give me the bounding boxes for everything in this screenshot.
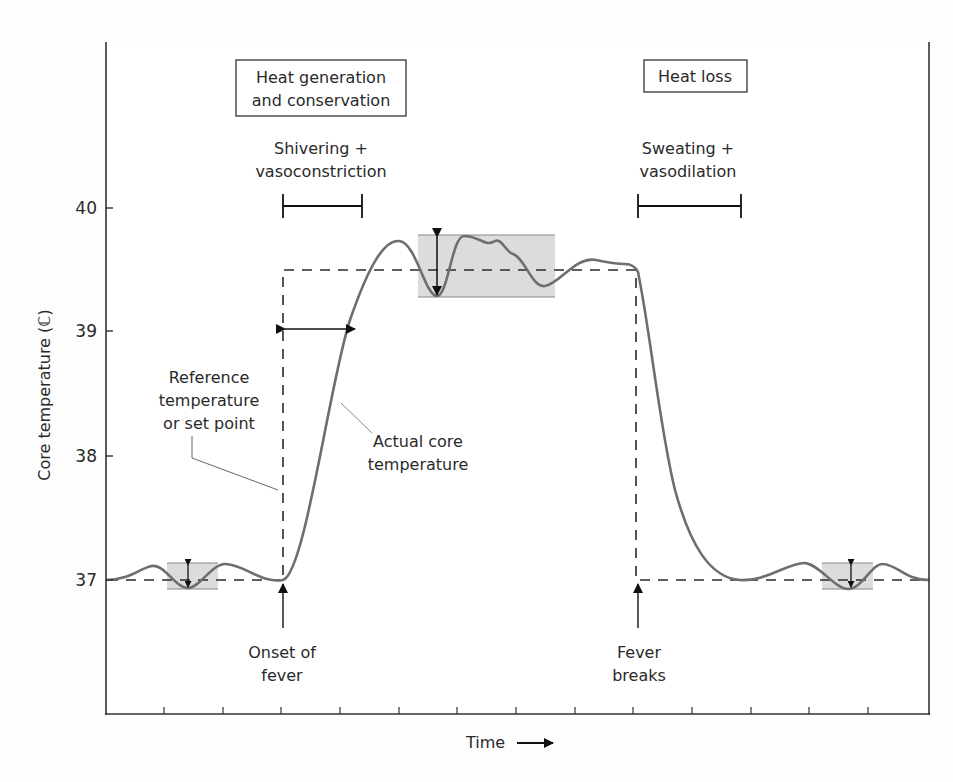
figure: 40 39 38 37 Core temperature (ℂ) Time He… — [0, 0, 953, 782]
x-axis-label: Time — [465, 733, 505, 752]
sweating-label-2: vasodilation — [640, 162, 737, 181]
fever-breaks-label-1: Fever — [617, 643, 661, 662]
shivering-label-2: vasoconstriction — [255, 162, 386, 181]
fever-chart: 40 39 38 37 Core temperature (ℂ) Time He… — [0, 0, 953, 782]
actual-label-2: temperature — [368, 455, 469, 474]
sweating-label-1: Sweating + — [642, 139, 734, 158]
reference-label-2: temperature — [159, 391, 260, 410]
y-axis-label: Core temperature (ℂ) — [35, 309, 54, 480]
heat-generation-label-2: and conservation — [252, 91, 391, 110]
shivering-label-1: Shivering + — [274, 139, 368, 158]
y-tick-40: 40 — [75, 198, 97, 218]
onset-label-1: Onset of — [248, 643, 316, 662]
actual-label-1: Actual core — [373, 432, 463, 451]
onset-label-2: fever — [261, 666, 303, 685]
y-tick-38: 38 — [75, 446, 97, 466]
heat-generation-label-1: Heat generation — [256, 68, 386, 87]
y-tick-37: 37 — [75, 570, 97, 590]
oscillation-band-fever — [418, 235, 555, 297]
y-tick-39: 39 — [75, 321, 97, 341]
heat-loss-label: Heat loss — [658, 67, 732, 86]
reference-label-3: or set point — [163, 414, 255, 433]
oscillation-band-left — [167, 563, 218, 589]
fever-breaks-label-2: breaks — [612, 666, 666, 685]
reference-label-1: Reference — [169, 368, 250, 387]
